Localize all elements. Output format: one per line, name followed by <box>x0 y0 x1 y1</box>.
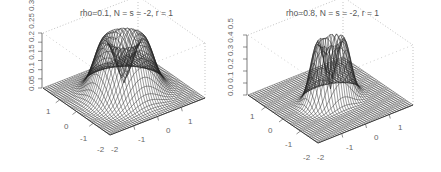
x-tick-left-m1: -1 <box>138 135 145 144</box>
plot-panel-right: rho=0.8, N = s = -2, r = 1 0.0 0.1 0.2 0… <box>220 0 441 172</box>
x-tick-right-m1: -1 <box>346 143 353 152</box>
x-tick-left-m2: -2 <box>111 145 118 154</box>
x-tick-left-0: 0 <box>166 126 170 135</box>
surface-plot-right <box>220 0 441 172</box>
plot-panel-left: rho=0.1, N = s = -2, r = 1 0.05 0.1 0.15… <box>0 0 220 172</box>
y-tick-right-1: 1 <box>250 112 254 121</box>
plot-title-right: rho=0.8, N = s = -2, r = 1 <box>286 8 379 18</box>
x-tick-right-1: 1 <box>398 123 402 132</box>
x-tick-right-m2: -2 <box>317 153 324 162</box>
y-tick-left-0: 0 <box>64 122 68 131</box>
y-tick-right-0: 0 <box>268 126 272 135</box>
y-tick-right-m1: -1 <box>285 140 292 149</box>
plot-title-left: rho=0.1, N = s = -2, r = 1 <box>80 8 173 18</box>
z-axis-label-left: 0.05 0.1 0.15 0.2 0.25 0.3 <box>27 0 36 91</box>
y-tick-right-m2: -2 <box>303 153 310 162</box>
y-tick-left-m1: -1 <box>80 134 87 143</box>
y-tick-left-1: 1 <box>46 107 50 116</box>
y-tick-left-m2: -2 <box>97 145 104 154</box>
x-tick-left-1: 1 <box>188 117 192 126</box>
x-tick-right-0: 0 <box>374 133 378 142</box>
z-axis-label-right: 0.0 0.1 0.2 0.3 0.4 0.5 <box>226 18 235 96</box>
